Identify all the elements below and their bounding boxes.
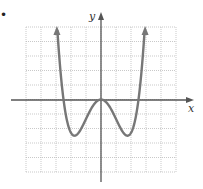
chart: • y x [0,0,203,189]
axes [11,12,194,182]
y-axis-label: y [88,10,96,23]
x-axis-label: x [188,102,195,115]
graph-svg: y x [0,0,203,189]
